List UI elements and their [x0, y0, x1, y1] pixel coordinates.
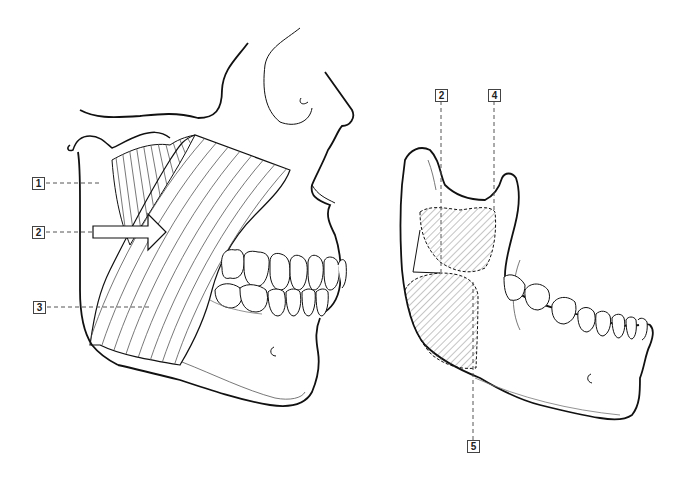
mental-foramen-right	[588, 374, 592, 383]
label-4: 4	[488, 89, 501, 102]
hatched-region-upper	[420, 208, 496, 272]
leader-lines-left	[46, 183, 150, 307]
mandible-teeth	[504, 275, 647, 340]
hatched-region-lower	[405, 273, 478, 368]
mandible-inner-border	[475, 378, 620, 415]
posterior-border	[78, 152, 118, 365]
maxilla-notch	[312, 185, 335, 203]
ear-canal-hint	[300, 98, 308, 104]
sigmoid-notch-line	[428, 160, 436, 190]
label-1: 1	[32, 177, 45, 190]
upper-teeth	[222, 250, 347, 290]
label-3: 3	[33, 301, 46, 314]
orbit-outline	[264, 28, 312, 124]
mandible-inner-border	[182, 362, 305, 399]
mental-foramen	[271, 347, 276, 356]
superficial-masseter	[90, 135, 290, 365]
superficial-masseter-fibers	[90, 138, 301, 368]
label-5: 5	[467, 440, 480, 453]
zygomatic-arch-outline	[80, 43, 248, 118]
mandible-lower-border	[118, 318, 320, 406]
anatomy-figure	[0, 0, 684, 484]
ramus-outline	[68, 132, 170, 150]
skull-lateral	[46, 28, 353, 406]
label-2: 2	[32, 226, 45, 239]
mandible-isolated	[401, 101, 653, 440]
label-2-right: 2	[435, 89, 448, 102]
